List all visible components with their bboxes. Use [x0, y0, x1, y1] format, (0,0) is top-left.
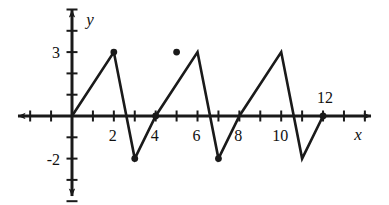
x-tick-label: 2 [109, 127, 117, 144]
data-point-dot [320, 113, 327, 120]
x-axis-tick-labels: 246810 [109, 127, 288, 144]
x-tick-label: 6 [193, 127, 201, 144]
coordinate-plane: 246810 3-2 12 x y [0, 0, 389, 205]
data-point-dot [215, 155, 222, 162]
data-point-dot [152, 113, 159, 120]
y-axis-tick-labels: 3-2 [47, 44, 60, 168]
y-tick-label: -2 [47, 151, 60, 168]
x-tick-label: 10 [272, 127, 288, 144]
data-point-dot [131, 155, 138, 162]
x-axis-label: x [353, 125, 362, 144]
annotation-label: 12 [317, 89, 333, 106]
graph-figure: 246810 3-2 12 x y [0, 0, 389, 205]
y-tick-label: 3 [52, 44, 60, 61]
x-tick-label: 8 [234, 127, 242, 144]
data-point-dot [173, 49, 180, 56]
data-point-dot [110, 49, 117, 56]
annotation-labels: 12 [317, 89, 333, 106]
x-tick-label: 4 [151, 127, 159, 144]
y-axis-label: y [84, 10, 94, 29]
